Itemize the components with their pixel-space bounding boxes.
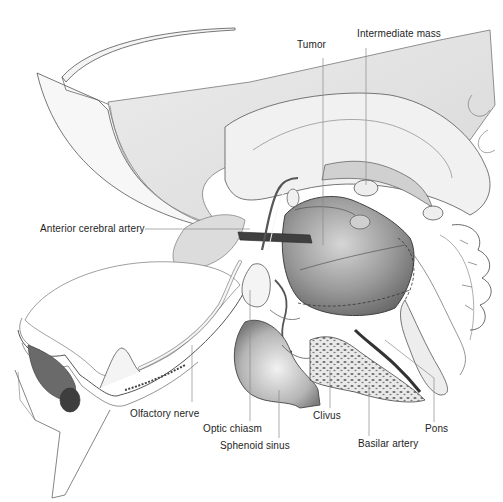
label-olfactory-nerve: Olfactory nerve — [130, 408, 199, 420]
anatomical-illustration: Tumor Intermediate mass Anterior cerebra… — [0, 0, 503, 502]
label-optic-chiasm: Optic chiasm — [203, 423, 262, 435]
tumor-mass — [282, 196, 414, 315]
label-intermediate-mass: Intermediate mass — [357, 28, 441, 40]
sphenoid-sinus-cavity — [234, 320, 320, 408]
label-pons: Pons — [425, 423, 448, 435]
frontal-lobe — [20, 215, 245, 377]
label-anterior-cerebral-artery: Anterior cerebral artery — [40, 223, 145, 235]
label-tumor: Tumor — [297, 39, 326, 51]
cerebellum — [452, 225, 491, 330]
label-sphenoid-sinus: Sphenoid sinus — [220, 440, 290, 452]
label-basilar-artery: Basilar artery — [358, 438, 418, 450]
label-clivus: Clivus — [313, 410, 341, 422]
